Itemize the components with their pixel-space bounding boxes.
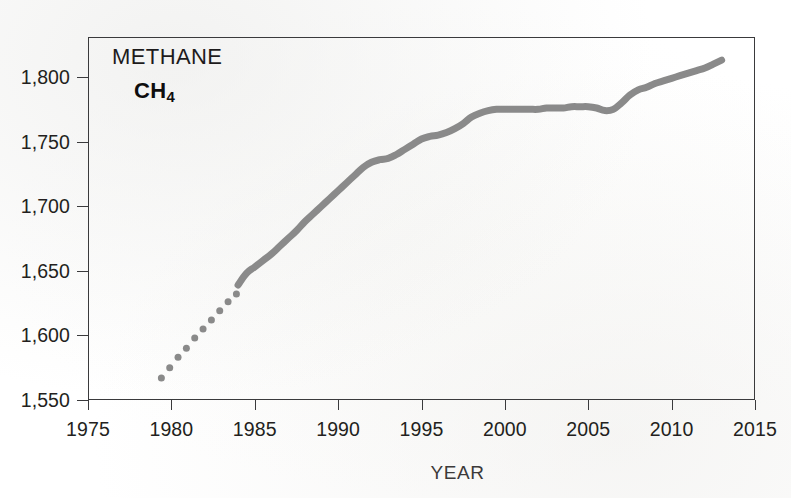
x-axis-tick-label: 2010 <box>650 418 694 441</box>
x-axis-tick-mark <box>588 400 589 410</box>
x-axis-title: YEAR <box>430 462 484 484</box>
x-axis-tick-label: 2005 <box>566 418 610 441</box>
x-axis-tick-mark <box>338 400 339 410</box>
series-annotation: METHANE CH4 <box>112 46 222 102</box>
x-axis-tick-label: 2000 <box>483 418 527 441</box>
y-axis-tick-mark <box>77 206 88 207</box>
y-axis-tick-mark <box>77 335 88 336</box>
x-axis-tick-label: 1980 <box>149 418 193 441</box>
x-axis-tick-mark <box>88 400 89 410</box>
annotation-formula-subscript: 4 <box>167 88 176 105</box>
y-axis-tick-label: 1,750 <box>0 130 70 153</box>
x-axis-tick-label: 1995 <box>400 418 444 441</box>
y-axis-tick-label: 1,800 <box>0 66 70 89</box>
y-axis-tick-label: 1,550 <box>0 389 70 412</box>
x-axis-tick-mark <box>171 400 172 410</box>
annotation-title: METHANE <box>112 46 222 68</box>
x-axis-tick-mark <box>672 400 673 410</box>
y-axis-tick-mark <box>77 400 88 401</box>
y-axis-tick-mark <box>77 77 88 78</box>
x-axis-tick-label: 1975 <box>66 418 110 441</box>
y-axis-tick-label: 1,650 <box>0 259 70 282</box>
methane-chart-figure: METHANE CH4 1,5501,6001,6501,7001,7501,8… <box>0 0 791 498</box>
annotation-formula-base: CH <box>134 78 167 103</box>
y-axis-tick-label: 1,700 <box>0 195 70 218</box>
x-axis-tick-label: 1985 <box>233 418 277 441</box>
x-axis-tick-mark <box>505 400 506 410</box>
y-axis-tick-label: 1,600 <box>0 324 70 347</box>
x-axis-tick-mark <box>755 400 756 410</box>
x-axis-tick-mark <box>422 400 423 410</box>
y-axis-tick-mark <box>77 271 88 272</box>
x-axis-tick-label: 1990 <box>316 418 360 441</box>
y-axis-tick-mark <box>77 142 88 143</box>
annotation-formula: CH4 <box>134 80 222 102</box>
x-axis-tick-label: 2015 <box>733 418 777 441</box>
x-axis-tick-mark <box>255 400 256 410</box>
